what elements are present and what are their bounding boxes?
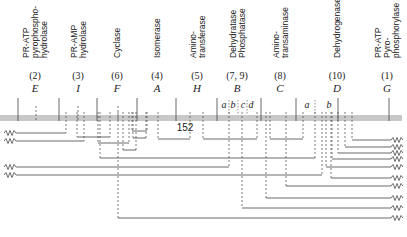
break-zigzag-icon <box>391 138 403 143</box>
deletion-right <box>331 112 403 181</box>
break-zigzag-icon <box>391 145 403 150</box>
enzyme-labels: PR-ATPpyrophospho-hydrolase(2)EPR-AMPhyd… <box>21 0 401 94</box>
enzyme-step-number: (3) <box>72 70 84 82</box>
enzyme-label-D: Dehydrogenase(10)D <box>329 0 346 94</box>
enzyme-step-number: (5) <box>191 70 203 82</box>
enzyme-label-F: Cyclase(6)F <box>111 27 123 94</box>
enzyme-step-number: (7, 9) <box>226 70 248 82</box>
enzyme-label-C: Amino-transaminase(8)C <box>271 7 290 94</box>
enzyme-name-line: Isomerase <box>152 18 162 58</box>
enzyme-step-number: (6) <box>111 70 123 82</box>
deletion-right <box>286 112 403 189</box>
enzyme-name-line: Cyclase <box>112 27 122 58</box>
gene-letter: C <box>276 82 284 94</box>
break-zigzag-icon <box>391 206 403 211</box>
break-zigzag-icon <box>4 131 16 136</box>
break-zigzag-icon <box>391 196 403 201</box>
subregion-label: c <box>241 99 246 110</box>
subregion-label: a <box>222 99 227 110</box>
enzyme-step-number: (8) <box>274 70 286 82</box>
enzyme-step-number: (4) <box>151 70 163 82</box>
enzyme-step-number: (10) <box>329 70 346 82</box>
histidine-operon-map: PR-ATPpyrophospho-hydrolase(2)EPR-AMPhyd… <box>0 0 407 237</box>
gene-letter: A <box>153 82 161 94</box>
enzyme-label-I: PR-AMPhydrolase(3)I <box>69 21 88 94</box>
break-zigzag-icon <box>391 216 403 221</box>
gene-letter: I <box>75 82 81 94</box>
enzyme-label-E: PR-ATPpyrophospho-hydrolase(2)E <box>21 6 49 94</box>
enzyme-name-line: transaminase <box>280 7 290 58</box>
break-zigzag-icon <box>391 184 403 189</box>
break-zigzag-icon <box>4 165 16 170</box>
genetic-map-diagram: PR-ATPpyrophospho-hydrolase(2)EPR-AMPhyd… <box>0 0 407 237</box>
enzyme-name-line: hydrolase <box>39 21 49 58</box>
deletion-right <box>118 112 403 221</box>
enzyme-name-line: transferase <box>197 15 207 58</box>
deletion-right <box>266 112 403 201</box>
enzyme-label-G: PR-ATPPyro-phosphorylase(1)G <box>373 2 401 94</box>
chromosome-band <box>0 115 402 121</box>
enzyme-label-A: Isomerase(4)A <box>151 18 163 94</box>
enzyme-name-line: Dehydrogenase <box>332 0 342 58</box>
enzyme-label-B: DehydratasePhosphatase(7, 9)B <box>226 8 248 94</box>
subregion-label: a <box>305 99 310 110</box>
subregion-label: b <box>327 99 332 110</box>
enzyme-name-line: Phosphatase <box>237 8 247 58</box>
deletion-lines <box>4 112 403 221</box>
enzyme-label-H: Amino-transferase(5)H <box>188 15 207 94</box>
enzyme-name-line: hydrolase <box>78 21 88 58</box>
break-zigzag-icon <box>391 151 403 156</box>
gene-letter: B <box>234 82 241 94</box>
enzyme-step-number: (2) <box>29 70 41 82</box>
gene-letter: E <box>31 82 39 94</box>
deletion-left <box>4 112 322 178</box>
gene-map: abcdab152 <box>0 98 402 133</box>
break-zigzag-icon <box>4 139 16 144</box>
subregion-label: b <box>231 99 236 110</box>
break-zigzag-icon <box>4 173 16 178</box>
subregion-label: d <box>249 99 255 110</box>
internal-deletion <box>132 112 147 131</box>
gene-letter: G <box>383 82 391 94</box>
break-zigzag-icon <box>391 176 403 181</box>
deletion-number-label: 152 <box>177 122 194 133</box>
gene-letter: H <box>192 82 202 94</box>
enzyme-name-line: phosphorylase <box>391 2 401 58</box>
enzyme-step-number: (1) <box>381 70 393 82</box>
break-zigzag-icon <box>391 157 403 162</box>
gene-letter: F <box>113 82 121 94</box>
break-zigzag-icon <box>391 165 403 170</box>
gene-letter: D <box>332 82 341 94</box>
